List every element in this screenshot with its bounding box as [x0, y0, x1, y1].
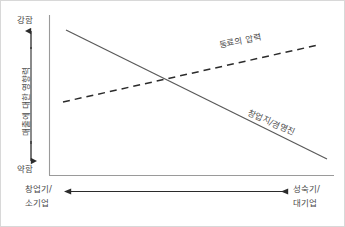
- x-axis-left-label-line2: 소기업: [25, 198, 52, 209]
- x-axis-left-label-line1: 창업기/: [25, 184, 52, 195]
- x-axis-right-label-line1: 성숙기/: [293, 184, 320, 195]
- x-axis-left-label-group: 창업기/ 소기업: [25, 184, 52, 208]
- series-line-peer-pressure: [63, 45, 318, 102]
- x-axis-right-label-group: 성숙기/ 대기업: [293, 184, 320, 208]
- y-axis-bottom-label: 약함: [17, 164, 33, 175]
- y-axis-title: 매출에 대한 영향력: [21, 53, 32, 149]
- series-line-founder-management: [66, 30, 327, 159]
- chart-figure: 강함 약함 매출에 대한 영향력 동료의 압력 창업지/경영진 창업기/ 소기업…: [0, 0, 345, 227]
- y-axis-top-label: 강함: [17, 15, 33, 26]
- x-axis-right-label-line2: 대기업: [293, 198, 320, 209]
